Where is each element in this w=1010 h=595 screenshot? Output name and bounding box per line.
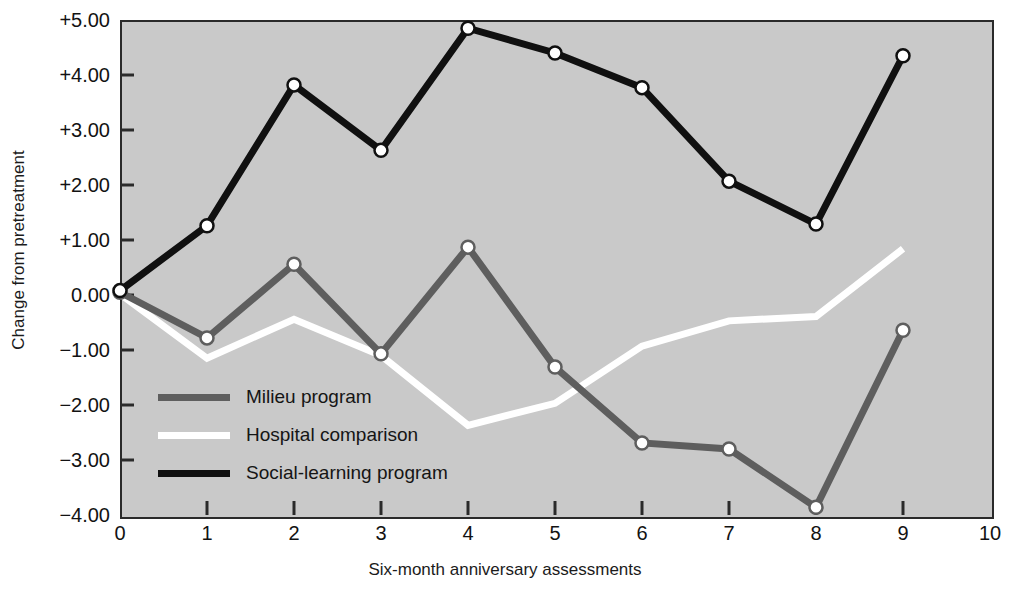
x-axis-tick-label: 1 bbox=[184, 523, 230, 543]
x-axis-title: Six-month anniversary assessments bbox=[0, 560, 1010, 580]
x-axis-tick-label: 0 bbox=[97, 523, 143, 543]
x-axis-tick-label: 5 bbox=[532, 523, 578, 543]
x-axis-tick-labels: 012345678910 bbox=[0, 0, 1010, 595]
x-axis-tick-label: 2 bbox=[271, 523, 317, 543]
x-axis-tick-label: 8 bbox=[793, 523, 839, 543]
x-axis-tick-label: 10 bbox=[967, 523, 1010, 543]
x-axis-tick-label: 7 bbox=[706, 523, 752, 543]
x-axis-tick-label: 3 bbox=[358, 523, 404, 543]
x-axis-tick-label: 9 bbox=[880, 523, 926, 543]
x-axis-tick-label: 6 bbox=[619, 523, 665, 543]
line-chart-figure: Change from pretreatment +5.00+4.00+3.00… bbox=[0, 0, 1010, 595]
x-axis-tick-label: 4 bbox=[445, 523, 491, 543]
